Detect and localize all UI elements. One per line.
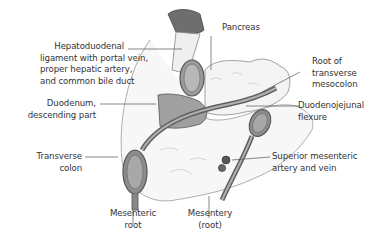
label-line: flexure <box>298 112 364 124</box>
label-line: Transverse <box>20 151 82 163</box>
label-root-transverse-mesocolon: Root of transverse mesocolon <box>312 56 358 91</box>
anatomy-figure: Hepatoduodenal ligament with portal vein… <box>0 0 384 239</box>
label-line: Duodenojejunal <box>298 100 364 112</box>
label-line: descending part <box>20 110 96 122</box>
label-line: Superior mesenteric <box>272 151 357 163</box>
label-line: root <box>103 220 163 232</box>
label-duodenojejunal-flexure: Duodenojejunal flexure <box>298 100 364 123</box>
label-line: transverse <box>312 68 358 80</box>
label-line: artery and vein <box>272 163 357 175</box>
label-pancreas: Pancreas <box>222 22 260 34</box>
sma-vessel <box>222 156 230 164</box>
label-line: Hepatoduodenal <box>40 41 124 53</box>
label-line: Mesenteric <box>103 208 163 220</box>
hepatoduodenal-ligament <box>168 10 204 35</box>
label-duodenum-descending: Duodenum, descending part <box>20 98 96 121</box>
label-hepatoduodenal-ligament: Hepatoduodenal ligament with portal vein… <box>40 41 124 87</box>
label-line: (root) <box>180 220 240 232</box>
label-transverse-colon: Transverse colon <box>20 151 82 174</box>
label-line: colon <box>20 163 82 175</box>
label-line: ligament with portal vein, <box>40 53 124 65</box>
label-line: Pancreas <box>222 22 260 34</box>
label-mesenteric-root: Mesenteric root <box>103 208 163 231</box>
label-line: Mesentery <box>180 208 240 220</box>
label-line: Duodenum, <box>20 98 96 110</box>
label-line: proper hepatic artery, <box>40 64 124 76</box>
label-line: mesocolon <box>312 79 358 91</box>
label-line: and common bile duct <box>40 76 124 88</box>
label-line: Root of <box>312 56 358 68</box>
label-superior-mesenteric-vessels: Superior mesenteric artery and vein <box>272 151 357 174</box>
smv-vessel <box>218 164 225 171</box>
label-mesentery-root: Mesentery (root) <box>180 208 240 231</box>
